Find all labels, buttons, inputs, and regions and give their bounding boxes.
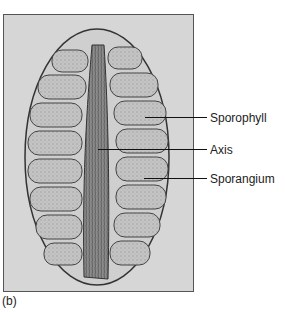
micrograph-image	[3, 14, 194, 292]
sporangium-label: Sporangium	[210, 173, 275, 185]
axis-label: Axis	[210, 144, 233, 156]
panel-label: (b)	[2, 294, 17, 308]
strobilus-section-illustration	[4, 15, 194, 292]
sporophyll-label: Sporophyll	[210, 112, 267, 124]
sporophyll-leader-line	[145, 117, 207, 118]
sporangium-leader-line	[144, 178, 207, 179]
axis-leader-line	[98, 149, 207, 150]
